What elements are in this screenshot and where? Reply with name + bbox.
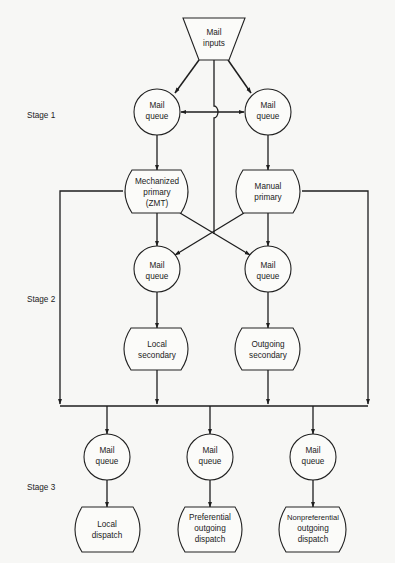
stage-3-label: Stage 3 xyxy=(27,483,56,492)
node-s3-queue-1: Mail queue xyxy=(84,434,130,480)
node-s2-queue-left: Mail queue xyxy=(134,246,180,292)
node-mechanized-primary: Mechanized primary (ZMT) xyxy=(125,170,188,213)
node-label-line: dispatch xyxy=(298,535,329,544)
node-label-line: secondary xyxy=(138,351,177,360)
node-label-line: queue xyxy=(199,457,222,466)
node-label-line: Outgoing xyxy=(251,340,285,349)
node-label-line: outgoing xyxy=(297,524,329,533)
node-label-line: Mail xyxy=(149,101,164,110)
node-label-line: Mechanized xyxy=(135,177,180,186)
node-s3-queue-3: Mail queue xyxy=(290,434,336,480)
node-local-dispatch: Local dispatch xyxy=(75,507,140,552)
edge-inputs-to-queue-right xyxy=(228,60,251,93)
node-label-line: Mail xyxy=(99,446,114,455)
node-manual-primary: Manual primary xyxy=(236,170,300,213)
node-outgoing-secondary: Outgoing secondary xyxy=(235,328,300,370)
process-shape xyxy=(235,328,300,370)
node-label-line: Local xyxy=(147,340,167,349)
node-label-line: (ZMT) xyxy=(146,199,169,208)
node-s3-queue-2: Mail queue xyxy=(187,434,233,480)
node-label-line: Local xyxy=(97,520,117,529)
node-label-line: queue xyxy=(146,272,169,281)
process-shape xyxy=(236,170,300,213)
node-label-line: Mail xyxy=(149,261,164,270)
node-label-line: inputs xyxy=(203,39,225,48)
process-shape xyxy=(124,328,188,370)
node-label-line: Manual xyxy=(255,182,282,191)
node-s1-queue-left: Mail queue xyxy=(134,89,180,135)
stage-1-label: Stage 1 xyxy=(27,111,56,120)
edge-manual-bypass-to-bus xyxy=(302,191,368,404)
edge-manual-to-s2-queue-left xyxy=(175,213,244,255)
node-label-line: Mail xyxy=(260,101,275,110)
node-label-line: queue xyxy=(302,457,325,466)
node-label-line: queue xyxy=(257,272,280,281)
node-label-line: outgoing xyxy=(194,524,226,533)
edge-inputs-to-queue-left xyxy=(175,60,199,93)
process-shape xyxy=(75,507,140,552)
node-label-line: queue xyxy=(146,112,169,121)
node-local-secondary: Local secondary xyxy=(124,328,188,370)
node-label-line: Mail xyxy=(202,446,217,455)
mail-processing-flowchart: Mail inputs Mail queue Mail queue Mechan… xyxy=(0,0,395,563)
node-label-line: secondary xyxy=(249,351,288,360)
node-label-line: queue xyxy=(257,112,280,121)
node-label-line: Mail xyxy=(260,261,275,270)
stage-2-label: Stage 2 xyxy=(27,295,56,304)
node-preferential-dispatch: Preferential outgoing dispatch xyxy=(178,507,242,552)
edge-inputs-center-trunk xyxy=(214,60,218,234)
node-label-line: dispatch xyxy=(195,535,226,544)
node-nonpreferential-dispatch: Nonpreferential outgoing dispatch xyxy=(279,507,346,552)
node-mail-inputs: Mail inputs xyxy=(183,18,245,60)
node-label-line: Preferential xyxy=(189,513,231,522)
node-s2-queue-right: Mail queue xyxy=(245,246,291,292)
edge-mechanized-bypass-to-bus xyxy=(60,191,123,404)
node-label-line: Mail xyxy=(305,446,320,455)
node-label-line: dispatch xyxy=(92,531,123,540)
node-s1-queue-right: Mail queue xyxy=(245,89,291,135)
node-label-line: Nonpreferential xyxy=(287,513,339,522)
edge-mechanized-to-s2-queue-right xyxy=(180,213,250,255)
node-label-line: queue xyxy=(96,457,119,466)
node-label-line: Mail xyxy=(206,28,221,37)
node-label-line: primary xyxy=(254,193,282,202)
node-label-line: primary xyxy=(143,188,171,197)
